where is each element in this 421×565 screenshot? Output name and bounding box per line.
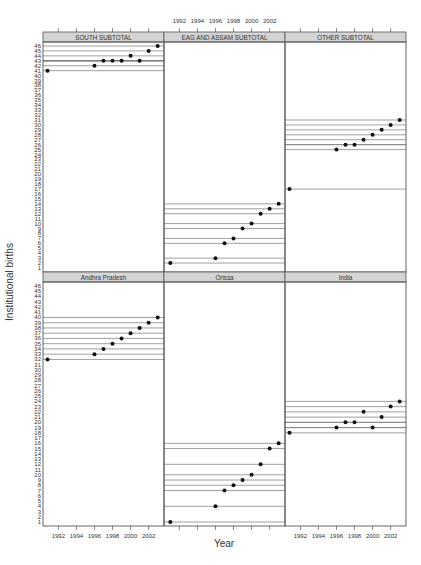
- data-point: [371, 133, 375, 137]
- y-tick-label: 5: [38, 498, 42, 504]
- y-tick-label: 16: [34, 440, 41, 446]
- data-point: [147, 49, 151, 53]
- panel-title: Andhra Pradesh: [81, 274, 127, 281]
- data-point: [344, 420, 348, 424]
- y-tick-label: 6: [38, 493, 42, 499]
- data-point: [111, 59, 115, 63]
- y-tick-label: 45: [34, 288, 41, 294]
- panel-title: OTHER SUBTOTAL: [317, 34, 374, 41]
- x-tick-label: 2002: [263, 18, 277, 24]
- data-point: [389, 405, 393, 409]
- y-tick-label: 2: [38, 514, 42, 520]
- y-tick-label: 32: [34, 356, 41, 362]
- data-point: [120, 59, 124, 63]
- data-point: [213, 504, 217, 508]
- y-tick-label: 22: [34, 409, 41, 415]
- panel-india: India: [285, 272, 406, 526]
- y-tick-label: 44: [34, 293, 41, 299]
- panel-title: Orissa: [215, 274, 234, 281]
- y-tick-label: 14: [34, 451, 41, 457]
- panel-frame: [43, 42, 164, 272]
- x-tick-label: 1992: [294, 533, 308, 539]
- panel-orissa: Orissa: [164, 272, 285, 526]
- data-point: [259, 212, 263, 216]
- y-tick-label: 19: [34, 425, 41, 431]
- data-point: [223, 489, 227, 493]
- panels: SOUTH SUBTOTALEAG AND ASSAM SUBTOTALOTHE…: [43, 32, 406, 526]
- y-tick-label: 3: [38, 509, 42, 515]
- panel-south-subtotal: SOUTH SUBTOTAL: [43, 32, 164, 272]
- data-point: [156, 44, 160, 48]
- data-point: [147, 321, 151, 325]
- data-point: [168, 520, 172, 524]
- x-tick-label: 1996: [330, 533, 344, 539]
- x-tick-label: 1996: [209, 18, 223, 24]
- data-point: [92, 64, 96, 68]
- data-point: [102, 59, 106, 63]
- x-tick-label: 1992: [52, 533, 66, 539]
- y-tick-label: 11: [35, 467, 42, 473]
- data-point: [334, 426, 338, 430]
- y-tick-label: 7: [38, 488, 42, 494]
- y-tick-label: 27: [34, 383, 41, 389]
- data-point: [46, 357, 50, 361]
- data-point: [277, 202, 281, 206]
- data-point: [259, 462, 263, 466]
- y-tick-label: 8: [38, 482, 42, 488]
- y-tick-label: 40: [34, 314, 41, 320]
- data-point: [380, 415, 384, 419]
- data-point: [353, 420, 357, 424]
- data-point: [380, 128, 384, 132]
- x-tick-label: 1992: [173, 18, 187, 24]
- data-point: [250, 473, 254, 477]
- x-tick-label: 1994: [70, 533, 84, 539]
- y-tick-label: 1: [38, 519, 42, 525]
- y-tick-label: 46: [34, 283, 41, 289]
- y-tick-label: 33: [34, 351, 41, 357]
- y-axis-title: Institutional births: [4, 243, 15, 321]
- data-point: [344, 143, 348, 147]
- y-tick-label: 21: [34, 414, 41, 420]
- data-point: [334, 148, 338, 152]
- data-point: [46, 69, 50, 73]
- data-point: [362, 410, 366, 414]
- x-tick-label: 2002: [384, 533, 398, 539]
- data-point: [156, 315, 160, 319]
- x-tick-label: 1996: [88, 533, 102, 539]
- data-point: [362, 138, 366, 142]
- y-tick-label: 35: [34, 341, 41, 347]
- data-point: [268, 447, 272, 451]
- data-point: [223, 241, 227, 245]
- data-point: [288, 187, 292, 191]
- y-tick-label: 38: [34, 325, 41, 331]
- data-point: [120, 336, 124, 340]
- y-tick-label: 25: [34, 393, 41, 399]
- y-tick-label: 46: [34, 43, 41, 49]
- y-tick-label: 34: [34, 346, 41, 352]
- x-tick-label: 1994: [191, 18, 205, 24]
- y-tick-label: 29: [34, 372, 41, 378]
- panel-andhra-pradesh: Andhra Pradesh: [43, 272, 164, 526]
- data-point: [241, 227, 245, 231]
- data-point: [213, 256, 217, 260]
- y-tick-label: 23: [34, 404, 41, 410]
- x-tick-label: 1994: [312, 533, 326, 539]
- y-tick-label: 18: [34, 430, 41, 436]
- data-point: [232, 483, 236, 487]
- y-tick-label: 42: [34, 304, 41, 310]
- data-point: [168, 261, 172, 265]
- data-point: [138, 59, 142, 63]
- panel-other-subtotal: OTHER SUBTOTAL: [285, 32, 406, 272]
- data-point: [232, 236, 236, 240]
- y-tick-label: 17: [34, 435, 41, 441]
- y-tick-label: 43: [34, 299, 41, 305]
- data-point: [111, 342, 115, 346]
- data-point: [277, 441, 281, 445]
- y-tick-label: 10: [34, 472, 41, 478]
- x-tick-label: 1998: [227, 18, 241, 24]
- data-point: [353, 143, 357, 147]
- y-tick-label: 4: [38, 503, 42, 509]
- data-point: [92, 352, 96, 356]
- x-tick-label: 1998: [348, 533, 362, 539]
- x-axis-title: Year: [214, 538, 235, 549]
